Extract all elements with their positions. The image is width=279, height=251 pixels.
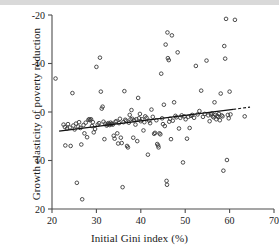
y-axis-title: Growth elasticity of poverty reduction bbox=[30, 0, 42, 234]
data-point bbox=[177, 127, 181, 131]
x-tick-label: 50 bbox=[180, 215, 190, 226]
axes-group: 20100-10-20203040506070 bbox=[32, 10, 279, 226]
data-point bbox=[64, 144, 68, 148]
data-point bbox=[130, 108, 134, 112]
data-point bbox=[169, 137, 173, 141]
data-point bbox=[222, 169, 226, 173]
data-point bbox=[136, 96, 140, 100]
data-point bbox=[170, 34, 174, 38]
data-point bbox=[135, 139, 139, 143]
data-point bbox=[103, 137, 107, 141]
data-point bbox=[80, 198, 84, 202]
data-point bbox=[115, 132, 119, 136]
data-point bbox=[116, 142, 120, 146]
data-point bbox=[223, 57, 227, 61]
data-point bbox=[80, 143, 84, 147]
data-point bbox=[227, 117, 231, 121]
data-point bbox=[75, 181, 79, 185]
data-point bbox=[162, 103, 166, 107]
data-point bbox=[159, 133, 163, 137]
data-point bbox=[243, 115, 247, 119]
data-point bbox=[166, 31, 170, 35]
data-point bbox=[153, 131, 157, 135]
data-point bbox=[77, 120, 81, 124]
data-point bbox=[93, 127, 97, 131]
data-point bbox=[146, 153, 150, 157]
data-point bbox=[118, 117, 122, 121]
data-point bbox=[233, 18, 237, 22]
data-point bbox=[121, 185, 125, 189]
data-point bbox=[83, 132, 87, 136]
x-tick-label: 40 bbox=[136, 215, 146, 226]
data-point bbox=[188, 126, 192, 130]
data-point bbox=[98, 56, 102, 60]
data-point bbox=[185, 137, 189, 141]
data-point bbox=[138, 112, 142, 116]
data-point bbox=[131, 136, 135, 140]
data-point bbox=[225, 158, 229, 162]
data-point bbox=[219, 92, 223, 96]
data-point bbox=[224, 17, 228, 21]
data-point bbox=[134, 123, 138, 127]
data-point bbox=[172, 101, 176, 105]
trendline-solid bbox=[59, 109, 233, 131]
data-point bbox=[218, 118, 222, 122]
trendline-dashed bbox=[233, 107, 250, 109]
data-point bbox=[205, 59, 209, 63]
data-point bbox=[198, 109, 202, 113]
data-point bbox=[171, 119, 175, 123]
data-point bbox=[85, 135, 89, 139]
data-point bbox=[91, 120, 95, 124]
data-point bbox=[165, 183, 169, 187]
data-point bbox=[151, 115, 155, 119]
scatter-chart-figure: 20100-10-20203040506070 Initial Gini ind… bbox=[0, 0, 279, 251]
data-point bbox=[142, 129, 146, 133]
data-point bbox=[176, 51, 180, 55]
data-point bbox=[150, 108, 154, 112]
data-point bbox=[165, 179, 169, 183]
data-point bbox=[228, 90, 232, 94]
data-point bbox=[208, 119, 212, 123]
data-point bbox=[128, 113, 132, 117]
data-point bbox=[119, 136, 123, 140]
data-point bbox=[192, 116, 196, 120]
data-point bbox=[159, 72, 163, 76]
data-points-group bbox=[54, 17, 247, 201]
data-point bbox=[221, 115, 225, 119]
data-point bbox=[95, 65, 99, 69]
data-point bbox=[181, 161, 185, 165]
x-tick-label: 70 bbox=[269, 215, 279, 226]
x-tick-label: 30 bbox=[91, 215, 101, 226]
data-point bbox=[222, 44, 226, 48]
x-tick-label: 60 bbox=[225, 215, 235, 226]
data-point bbox=[213, 101, 217, 105]
data-point bbox=[54, 77, 58, 81]
data-point bbox=[194, 64, 198, 68]
data-point bbox=[123, 89, 127, 93]
data-point bbox=[69, 144, 73, 148]
data-point bbox=[164, 43, 168, 47]
data-point bbox=[199, 89, 203, 93]
data-point bbox=[99, 90, 103, 94]
data-point bbox=[71, 91, 75, 95]
x-tick-label: 20 bbox=[47, 215, 57, 226]
data-point bbox=[120, 141, 124, 145]
